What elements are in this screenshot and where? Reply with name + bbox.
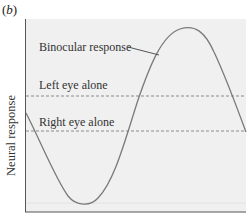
y-axis-label: Neural response <box>4 91 19 181</box>
binocular-label: Binocular response <box>39 40 131 55</box>
chart-plot <box>0 0 251 223</box>
right-eye-label: Right eye alone <box>39 115 114 130</box>
left-eye-label: Left eye alone <box>39 78 108 93</box>
